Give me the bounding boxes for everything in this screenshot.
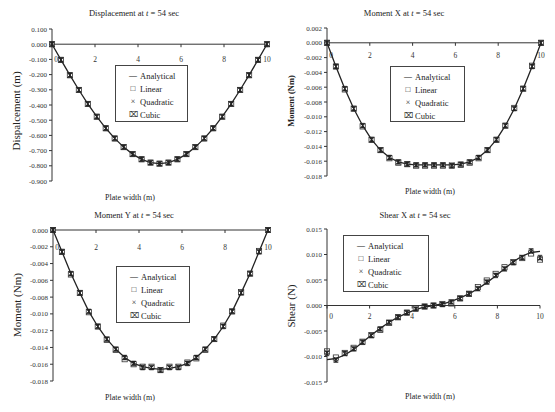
x-tick-label: 0 <box>329 312 333 321</box>
cubic-marker-icon: ⌧ <box>354 280 368 289</box>
legend-label: Analytical <box>368 241 403 251</box>
y-tick-label: -0.010 <box>304 353 323 361</box>
x-tick-label: 6 <box>453 312 457 321</box>
legend-analytical: —Analytical <box>354 239 422 252</box>
legend-label: Linear <box>368 254 390 264</box>
linear-marker-icon: □ <box>354 254 368 263</box>
cubic-marker <box>387 320 391 325</box>
y-axis-label: Shear (N) <box>285 284 297 327</box>
y-tick-label: -0.015 <box>304 379 323 387</box>
legend-linear: □Linear <box>354 252 422 265</box>
x-tick-label: 10 <box>536 312 544 321</box>
cubic-marker <box>360 340 364 345</box>
legend-label: Cubic <box>368 280 388 290</box>
y-tick-label: 0.010 <box>306 251 322 259</box>
x-tick-label: 4 <box>410 312 414 321</box>
analytical-marker-icon: — <box>354 241 368 250</box>
cubic-marker <box>476 286 480 291</box>
y-tick-label: 0.000 <box>306 302 322 310</box>
chart-legend: —Analytical□Linear×Quadratic⌧Cubic <box>343 235 429 292</box>
quadratic-marker-icon: × <box>354 267 368 276</box>
legend-label: Quadratic <box>368 267 402 277</box>
x-axis-label: Plate width (m) <box>405 392 455 401</box>
x-tick-label: 8 <box>496 312 500 321</box>
y-tick-label: 0.015 <box>306 226 322 234</box>
x-tick-label: 2 <box>368 312 372 321</box>
cubic-marker <box>502 266 506 271</box>
cubic-marker <box>396 315 400 320</box>
legend-quadratic: ×Quadratic <box>354 265 422 278</box>
chart-plot-area: 0.0150.0100.0050.000-0.005-0.010-0.01502… <box>0 0 555 412</box>
legend-cubic: ⌧Cubic <box>354 278 422 291</box>
y-tick-label: 0.005 <box>306 277 322 285</box>
cubic-marker <box>467 291 471 296</box>
y-tick-label: -0.005 <box>304 328 323 336</box>
